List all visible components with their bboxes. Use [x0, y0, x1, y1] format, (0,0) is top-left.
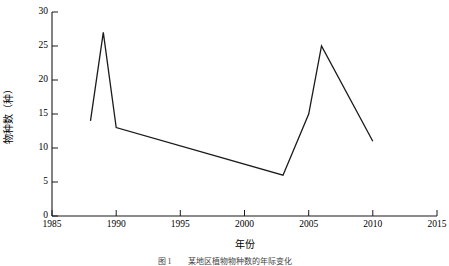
- y-axis-title: 物种数（种）: [0, 0, 18, 229]
- x-tick-label-2015: 2015: [417, 219, 449, 230]
- y-tick-label-25: 25: [24, 40, 48, 51]
- y-axis-ticks: [52, 12, 58, 216]
- x-tick-label-2010: 2010: [353, 219, 393, 230]
- figure-container: 0 5 10 15 20 25 30 1985 1990 1995 2000 2…: [0, 0, 449, 266]
- x-tick-label-2005: 2005: [289, 219, 329, 230]
- x-tick-label-1985: 1985: [32, 219, 72, 230]
- x-axis-ticks: [52, 210, 437, 216]
- y-tick-label-10: 10: [24, 142, 48, 153]
- y-tick-label-15: 15: [24, 108, 48, 119]
- y-tick-label-30: 30: [24, 6, 48, 17]
- x-tick-label-2000: 2000: [225, 219, 265, 230]
- x-tick-label-1990: 1990: [96, 219, 136, 230]
- figure-caption: 图 1 某地区植物物种数的年际变化: [0, 257, 449, 266]
- y-tick-label-20: 20: [24, 74, 48, 85]
- data-series-line: [91, 32, 373, 175]
- x-tick-label-1995: 1995: [160, 219, 200, 230]
- x-axis-title: 年份: [52, 238, 437, 251]
- y-tick-label-5: 5: [24, 176, 48, 187]
